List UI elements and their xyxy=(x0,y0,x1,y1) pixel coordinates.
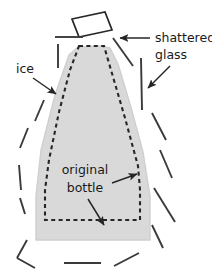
arrow-shattered-glass-to-shard xyxy=(148,66,170,88)
shard-left-lower-vertical xyxy=(19,165,21,190)
label-ice: ice xyxy=(16,61,34,76)
label-original-bottle-line2: bottle xyxy=(67,180,104,195)
shard-right-mid-diagonal xyxy=(160,150,172,178)
ice-block-silhouette xyxy=(36,46,150,240)
label-shattered-glass-line2: glass xyxy=(155,47,187,62)
arrow-ice-to-block xyxy=(33,78,56,94)
shard-right-upper-diagonal xyxy=(152,113,166,140)
detached-bottle-neck xyxy=(72,12,112,37)
label-shattered-glass-line1: shattered xyxy=(155,30,212,45)
shard-right-lower-diagonal xyxy=(154,188,175,222)
shard-left-upper-diagonal xyxy=(35,100,44,121)
shard-right-bottom-diagonal xyxy=(152,225,163,248)
shard-bottom-right-diagonal xyxy=(114,253,139,266)
shard-right-vertical xyxy=(141,58,142,110)
shard-left-bottom-short xyxy=(20,198,25,214)
shard-bottom-left-chevron-upper xyxy=(17,240,27,258)
diagram-svg: ice shattered glass original bottle xyxy=(0,0,212,274)
shard-bottom-left-chevron-lower xyxy=(17,258,35,268)
diagram-canvas: ice shattered glass original bottle xyxy=(0,0,212,274)
label-original-bottle-line1: original xyxy=(62,162,109,177)
shard-left-mid-diagonal xyxy=(20,128,28,148)
